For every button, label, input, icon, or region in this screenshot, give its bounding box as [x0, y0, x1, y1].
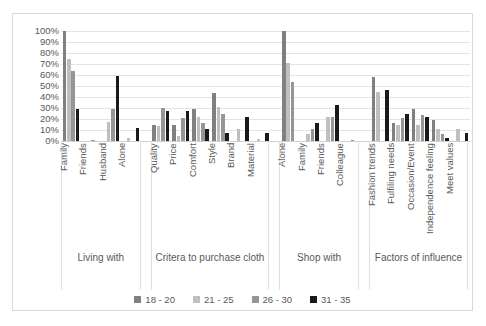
- bar: [412, 109, 416, 141]
- group-header: Living with: [61, 250, 141, 290]
- group-header: Shop with: [279, 250, 359, 290]
- bar: [335, 105, 339, 141]
- bar: [291, 82, 295, 141]
- bar-cluster: [61, 31, 81, 141]
- category-label: Meet values: [448, 143, 467, 261]
- group-header-label: Living with: [77, 252, 124, 264]
- bar: [315, 123, 319, 141]
- bar: [157, 126, 161, 141]
- y-axis-tick: 70%: [19, 59, 59, 69]
- bar-cluster: [410, 31, 430, 141]
- bar-series-container: [61, 31, 470, 141]
- group-header: Factors of influence: [369, 250, 468, 290]
- plot-canvas: [61, 31, 470, 141]
- bar: [331, 117, 335, 141]
- bar: [265, 133, 269, 141]
- legend-label: 31 - 35: [321, 294, 351, 305]
- bar: [286, 63, 290, 141]
- group-header-row: Living withCritera to purchase clothShop…: [61, 250, 468, 290]
- bar: [245, 117, 249, 141]
- bar: [217, 107, 221, 141]
- group-header-label: Shop with: [297, 252, 341, 264]
- y-axis-tick: 80%: [19, 48, 59, 58]
- y-axis-tick: 90%: [19, 37, 59, 47]
- bar: [465, 133, 469, 141]
- bar: [201, 123, 205, 141]
- bar: [326, 117, 330, 141]
- bar: [416, 125, 420, 142]
- bar: [436, 129, 440, 141]
- bar: [225, 133, 229, 141]
- legend-label: 21 - 25: [204, 294, 234, 305]
- bar: [311, 129, 315, 141]
- bar: [421, 115, 425, 141]
- group-spacer: [141, 31, 151, 141]
- y-axis-tick: 20%: [19, 114, 59, 124]
- bar: [71, 71, 75, 141]
- y-axis-tick: 100%: [19, 26, 59, 36]
- legend-swatch-icon: [252, 296, 259, 303]
- bar: [212, 93, 216, 141]
- legend-swatch-icon: [193, 296, 200, 303]
- y-axis-tick: 0%: [19, 136, 59, 146]
- bar: [181, 118, 185, 141]
- legend-item[interactable]: 26 - 30: [252, 294, 293, 305]
- bar-cluster: [300, 31, 320, 141]
- bar: [63, 31, 67, 141]
- bar: [376, 92, 380, 142]
- bar-cluster: [251, 31, 271, 141]
- legend-swatch-icon: [134, 296, 141, 303]
- category-label: Alone: [120, 143, 139, 261]
- group-header: Critera to purchase cloth: [151, 250, 270, 290]
- bar-group: [61, 31, 141, 141]
- bar: [221, 114, 225, 142]
- bar: [76, 109, 80, 141]
- group-header-spacer: [141, 250, 151, 290]
- bar: [306, 134, 310, 141]
- legend-label: 18 - 20: [145, 294, 175, 305]
- bar: [401, 118, 405, 141]
- bar-cluster: [231, 31, 251, 141]
- bar-cluster: [390, 31, 410, 141]
- chart-container: 100%90%80%70%60%50%40%30%20%10%0% Family…: [12, 13, 473, 311]
- group-label-box: QualityPriceComfortStyleBrandMaterial: [151, 141, 270, 266]
- group-header-label: Critera to purchase cloth: [155, 252, 264, 264]
- bar: [197, 117, 201, 141]
- bar-cluster: [340, 31, 360, 141]
- bar: [107, 122, 111, 141]
- group-spacer: [360, 31, 370, 141]
- bar: [425, 117, 429, 141]
- bar: [385, 90, 389, 141]
- bar: [152, 125, 156, 142]
- bar-group: [151, 31, 271, 141]
- bar: [396, 125, 400, 142]
- y-axis-tick: 50%: [19, 81, 59, 91]
- bar-cluster: [370, 31, 390, 141]
- bar-cluster: [151, 31, 171, 141]
- category-label-strip: FamilyFriendsHusbandAloneQualityPriceCom…: [61, 141, 468, 266]
- bar: [392, 123, 396, 141]
- bar: [372, 77, 376, 141]
- bar: [166, 111, 170, 141]
- bar-group: [280, 31, 360, 141]
- bar: [136, 128, 140, 141]
- y-axis-tick: 30%: [19, 103, 59, 113]
- bar-cluster: [211, 31, 231, 141]
- group-header-spacer: [269, 250, 279, 290]
- legend-item[interactable]: 21 - 25: [193, 294, 234, 305]
- bar-cluster: [430, 31, 450, 141]
- legend-item[interactable]: 31 - 35: [310, 294, 351, 305]
- bar: [116, 76, 120, 141]
- bar-cluster: [171, 31, 191, 141]
- category-label: Material: [249, 143, 268, 261]
- group-label-box: AloneFamilyFriendsColleague: [279, 141, 359, 266]
- y-axis-tick: 60%: [19, 70, 59, 80]
- bar: [111, 109, 115, 141]
- legend-item[interactable]: 18 - 20: [134, 294, 175, 305]
- bar: [192, 109, 196, 141]
- bar: [405, 114, 409, 142]
- group-label-box: FamilyFriendsHusbandAlone: [61, 141, 141, 266]
- category-label: Colleague: [338, 143, 357, 261]
- bar-cluster: [450, 31, 470, 141]
- bar-cluster: [320, 31, 340, 141]
